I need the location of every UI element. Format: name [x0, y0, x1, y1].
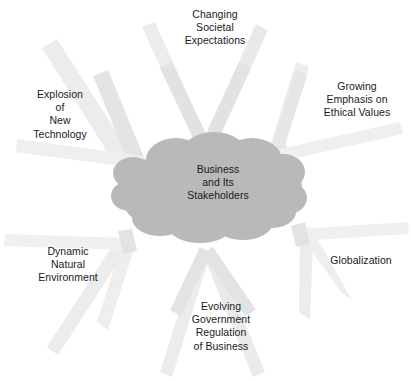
label-dynamic-natural-environment: Dynamic Natural Environment — [16, 245, 120, 285]
stakeholders-diagram: Changing Societal Expectations Growing E… — [0, 0, 411, 381]
label-changing-societal-expectations: Changing Societal Expectations — [160, 8, 270, 48]
label-globalization: Globalization — [314, 254, 408, 267]
label-business-and-its-stakeholders: Business and Its Stakeholders — [170, 163, 266, 203]
arrow-globalization — [291, 222, 409, 320]
label-growing-emphasis-on-ethical-values: Growing Emphasis on Ethical Values — [305, 80, 409, 120]
label-evolving-government-regulation-of-business: Evolving Government Regulation of Busine… — [168, 300, 274, 353]
label-explosion-of-new-technology: Explosion of New Technology — [8, 88, 112, 141]
